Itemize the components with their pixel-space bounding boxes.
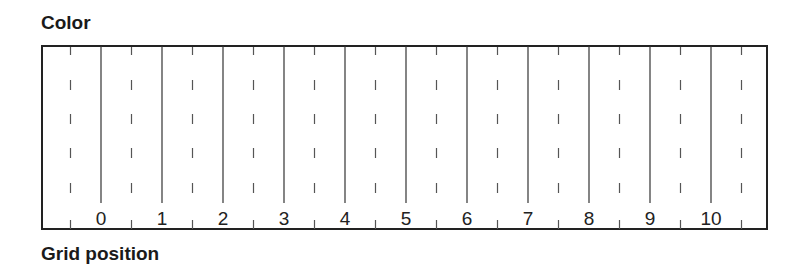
tick-label: 4 (340, 208, 351, 229)
tick-label: 2 (218, 208, 229, 229)
grid-lines: 012345678910 (0, 0, 806, 274)
tick-label: 8 (584, 208, 595, 229)
tick-label: 3 (279, 208, 290, 229)
tick-label: 10 (700, 208, 721, 229)
tick-label: 7 (523, 208, 534, 229)
tick-label: 0 (96, 208, 107, 229)
tick-label: 1 (157, 208, 168, 229)
grid-position-label: Grid position (41, 243, 159, 265)
tick-label: 9 (645, 208, 656, 229)
tick-label: 6 (462, 208, 473, 229)
tick-label: 5 (401, 208, 412, 229)
